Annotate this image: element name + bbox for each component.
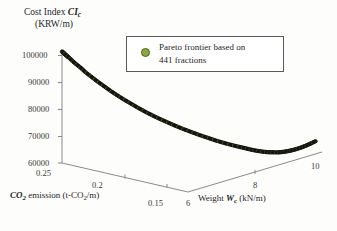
y-axis-ticks — [58, 56, 62, 164]
data-point — [314, 139, 317, 142]
plot-area — [0, 0, 337, 231]
legend-label: Pareto frontier based on 441 fractions — [159, 41, 245, 66]
legend: Pareto frontier based on 441 fractions — [126, 36, 284, 72]
chart-figure: Cost Index CIc (KRW/m) 100000 90000 8000… — [0, 0, 337, 231]
legend-marker-icon — [141, 48, 150, 57]
